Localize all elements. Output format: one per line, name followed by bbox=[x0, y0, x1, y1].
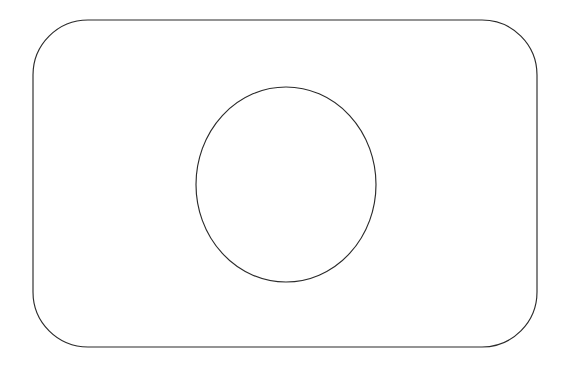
circle-outline bbox=[196, 87, 376, 282]
rounded-rectangle-outline bbox=[33, 20, 537, 347]
line-drawing-svg bbox=[0, 0, 586, 372]
drawing-canvas bbox=[0, 0, 586, 372]
